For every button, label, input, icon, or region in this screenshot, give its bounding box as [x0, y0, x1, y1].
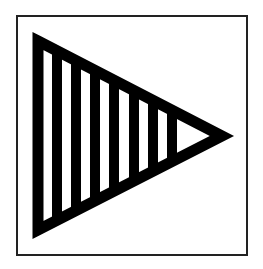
symbol-canvas: Striped right-pointing triangle in squar… [0, 0, 263, 269]
triangle-body [33, 0, 231, 269]
striped-triangle-icon [0, 0, 263, 269]
